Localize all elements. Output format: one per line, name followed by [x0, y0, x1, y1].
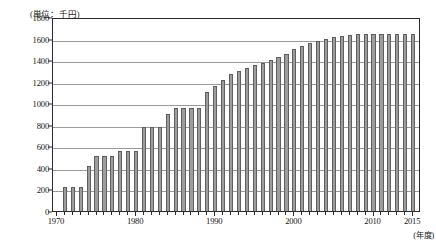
plot-area — [52, 18, 420, 212]
x-tick-mark-1987 — [190, 212, 191, 215]
x-tick-label-2015: 2015 — [404, 216, 420, 226]
x-tick-mark-2011 — [380, 212, 381, 215]
bar — [189, 108, 193, 211]
x-tick-mark-2008 — [357, 212, 358, 215]
bar — [197, 108, 201, 211]
bar — [308, 43, 312, 211]
bar — [110, 156, 114, 211]
bar — [71, 187, 75, 211]
x-tick-label-1970: 1970 — [48, 216, 64, 226]
plot-inner — [53, 19, 419, 211]
bar — [261, 63, 265, 211]
x-tick-mark-1988 — [198, 212, 199, 215]
bar — [371, 34, 375, 211]
bar — [300, 46, 304, 211]
x-tick-mark-1973 — [80, 212, 81, 215]
x-tick-label-1980: 1980 — [127, 216, 143, 226]
bar — [205, 92, 209, 211]
x-tick-mark-1999 — [285, 212, 286, 215]
x-tick-mark-2006 — [341, 212, 342, 215]
bar — [94, 156, 98, 211]
bar — [221, 80, 225, 211]
x-tick-mark-2007 — [349, 212, 350, 215]
x-tick-mark-1985 — [175, 212, 176, 215]
bar — [387, 34, 391, 211]
bar — [269, 60, 273, 211]
x-tick-mark-2005 — [333, 212, 334, 215]
y-tick-label-1800: 1800 — [33, 13, 49, 23]
x-tick-mark-1998 — [278, 212, 279, 215]
bar — [237, 71, 241, 211]
bar — [174, 108, 178, 211]
bar — [324, 39, 328, 211]
x-tick-mark-2001 — [301, 212, 302, 215]
x-tick-mark-2009 — [365, 212, 366, 215]
bar — [348, 35, 352, 211]
bar — [79, 187, 83, 211]
x-tick-mark-2012 — [388, 212, 389, 215]
bar — [150, 127, 154, 211]
bar — [364, 34, 368, 211]
bar — [403, 34, 407, 211]
bar — [102, 156, 106, 211]
x-tick-mark-1979 — [127, 212, 128, 215]
bar — [213, 86, 217, 211]
x-axis-labels: 197019801990200020102015 — [52, 216, 420, 230]
x-tick-mark-1976 — [103, 212, 104, 215]
y-tick-label-1600: 1600 — [33, 35, 49, 45]
bar — [63, 187, 67, 211]
bar — [340, 36, 344, 211]
x-tick-mark-2014 — [404, 212, 405, 215]
bar — [395, 34, 399, 211]
x-tick-mark-1986 — [183, 212, 184, 215]
bar — [118, 151, 122, 211]
bar — [284, 54, 288, 211]
x-tick-mark-1981 — [143, 212, 144, 215]
bar — [332, 37, 336, 211]
x-tick-label-2010: 2010 — [364, 216, 380, 226]
bar — [134, 151, 138, 211]
bar — [126, 151, 130, 211]
bar — [245, 68, 249, 211]
y-tick-label-1400: 1400 — [33, 56, 49, 66]
x-tick-label-1990: 1990 — [206, 216, 222, 226]
bar — [253, 65, 257, 211]
bar — [229, 74, 233, 211]
x-tick-mark-2003 — [317, 212, 318, 215]
x-tick-mark-1974 — [88, 212, 89, 215]
y-tick-label-1000: 1000 — [33, 99, 49, 109]
x-tick-mark-1977 — [111, 212, 112, 215]
bar — [166, 114, 170, 211]
x-tick-mark-1975 — [96, 212, 97, 215]
bar — [379, 34, 383, 211]
x-tick-mark-1993 — [238, 212, 239, 215]
x-tick-mark-1982 — [151, 212, 152, 215]
bar — [142, 127, 146, 211]
chart-container: (単位：千円) 02004006008001000120014001600180… — [0, 0, 436, 246]
x-tick-mark-1991 — [222, 212, 223, 215]
x-tick-label-2000: 2000 — [285, 216, 301, 226]
bar — [292, 49, 296, 211]
x-tick-mark-1989 — [206, 212, 207, 215]
x-tick-mark-1983 — [159, 212, 160, 215]
bar — [158, 127, 162, 211]
bar — [316, 41, 320, 211]
x-tick-mark-1994 — [246, 212, 247, 215]
y-tick-label-1200: 1200 — [33, 78, 49, 88]
x-tick-mark-1997 — [270, 212, 271, 215]
bar — [87, 166, 91, 211]
x-tick-mark-1978 — [119, 212, 120, 215]
bar — [356, 34, 360, 211]
bar — [276, 57, 280, 211]
x-tick-mark-1995 — [254, 212, 255, 215]
x-tick-mark-1984 — [167, 212, 168, 215]
x-tick-mark-1972 — [72, 212, 73, 215]
y-axis-labels: 020040060080010001200140016001800 — [20, 18, 49, 212]
x-tick-mark-1996 — [262, 212, 263, 215]
x-tick-mark-2013 — [396, 212, 397, 215]
x-tick-mark-2004 — [325, 212, 326, 215]
x-tick-mark-1971 — [64, 212, 65, 215]
x-axis-caption: (年度) — [413, 228, 434, 240]
bar — [411, 34, 415, 211]
x-tick-mark-2002 — [309, 212, 310, 215]
